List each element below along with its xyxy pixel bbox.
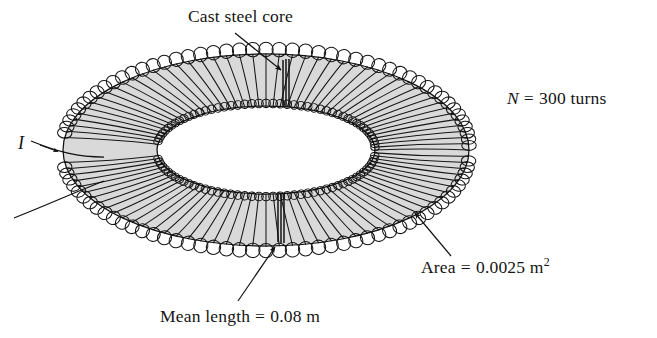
label-current-symbol: I xyxy=(18,134,24,152)
label-number-of-turns: N = 300 turns xyxy=(507,90,606,108)
toroid-diagram-canvas xyxy=(0,0,657,338)
turns-unit: turns xyxy=(566,88,607,108)
label-cast-steel-core: Cast steel core xyxy=(188,8,293,26)
area-equals: = xyxy=(456,257,476,277)
mean-length-value: 0.08 xyxy=(270,306,301,326)
turns-equals: = xyxy=(519,88,539,108)
leader-area xyxy=(415,213,451,256)
label-area: Area = 0.0025 m2 xyxy=(421,259,550,277)
toroid-figure: Cast steel core N = 300 turns Area = 0.0… xyxy=(0,0,657,338)
area-unit: m xyxy=(530,257,544,277)
turns-value: 300 xyxy=(539,88,566,108)
area-name: Area xyxy=(421,257,456,277)
mean-length-name: Mean length xyxy=(160,306,250,326)
label-mean-length: Mean length = 0.08 m xyxy=(160,308,320,326)
mean-length-equals: = xyxy=(250,306,270,326)
current-arrow xyxy=(40,145,58,152)
mean-length-unit: m xyxy=(302,306,320,326)
turns-symbol: N xyxy=(507,88,519,108)
area-value: 0.0025 xyxy=(476,257,525,277)
area-exponent: 2 xyxy=(544,255,550,269)
